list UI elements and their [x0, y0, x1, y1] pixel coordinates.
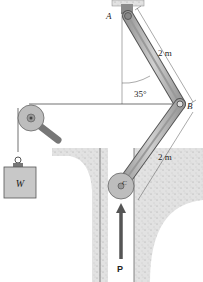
point-a-label: A — [105, 11, 112, 21]
pin-b — [177, 101, 183, 107]
point-b-label: B — [187, 101, 193, 111]
point-c-label: C — [122, 179, 127, 187]
ground-left — [52, 148, 108, 282]
angle-arc — [122, 76, 150, 83]
force-arrow-p — [116, 203, 126, 259]
dimension-ab-label: 2 m — [158, 48, 172, 58]
ground-right — [134, 148, 203, 282]
dimension-bc-label: 2 m — [158, 152, 172, 162]
angle-label: 35° — [134, 89, 147, 99]
force-label: P — [117, 264, 123, 274]
pulley — [18, 105, 58, 140]
roller-c — [108, 173, 134, 199]
pin-a — [125, 13, 132, 20]
mechanism-diagram: 35° W 2 m — [0, 0, 203, 282]
weight-block: W — [4, 157, 36, 198]
